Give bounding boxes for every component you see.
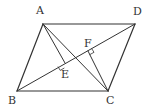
- label-e: E: [61, 68, 69, 81]
- perpendicular-cf: [88, 51, 108, 91]
- label-d: D: [133, 5, 142, 18]
- label-b: B: [8, 94, 16, 107]
- parallelogram-diagram: A D B C E F: [0, 0, 151, 108]
- diagonal-bd: [17, 24, 135, 91]
- label-f: F: [84, 37, 92, 50]
- side-cd: [108, 24, 135, 91]
- label-a: A: [35, 4, 45, 17]
- side-ab: [17, 24, 43, 91]
- label-c: C: [106, 94, 114, 107]
